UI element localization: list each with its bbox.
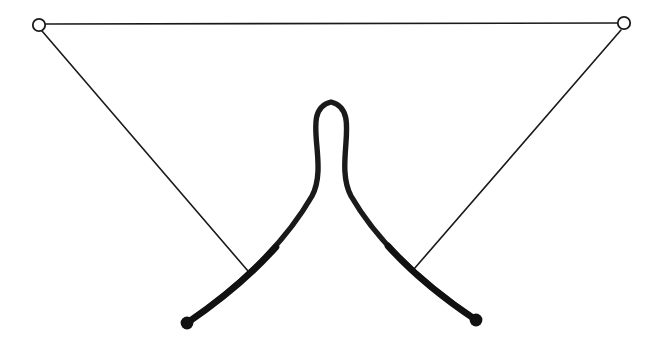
looped-curve-figure <box>0 0 657 346</box>
bottom-right-filled-node[interactable] <box>470 314 483 327</box>
figure-root <box>0 0 657 346</box>
figure-background <box>0 0 657 346</box>
top-chord-line <box>45 23 618 24</box>
top-left-open-node[interactable] <box>33 19 45 31</box>
top-right-open-node[interactable] <box>618 17 630 29</box>
bottom-left-filled-node[interactable] <box>181 317 194 330</box>
